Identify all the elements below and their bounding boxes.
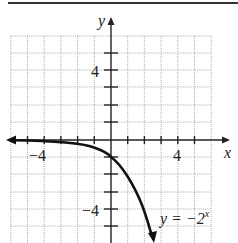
x-axis-label: x — [223, 144, 231, 161]
equation-label: y = −2x — [158, 208, 210, 228]
exponential-graph: y x 4 −4 −4 4 y = −2x — [0, 0, 238, 243]
x-tick-label-4: 4 — [173, 147, 181, 164]
x-axis-arrow-icon — [222, 137, 230, 144]
y-tick-label-4: 4 — [91, 63, 99, 80]
y-tick-label-neg4: −4 — [82, 202, 99, 219]
y-axis-label: y — [96, 12, 106, 30]
curve-down-arrow-icon — [148, 231, 157, 243]
y-axis-arrow-icon — [108, 17, 115, 25]
x-tick-label-neg4: −4 — [29, 147, 46, 164]
